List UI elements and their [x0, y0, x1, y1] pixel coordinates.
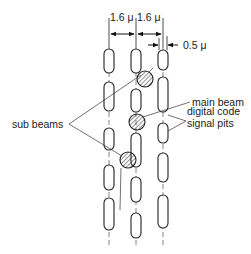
dimension-label-pitch-1: 1.6 μ: [110, 11, 134, 23]
pit: [104, 165, 114, 190]
pits-label-line1: digital code: [187, 105, 240, 117]
pit: [158, 153, 168, 182]
pit: [104, 49, 114, 73]
dimension-label-pitch-2: 1.6 μ: [137, 11, 161, 23]
pit: [131, 177, 141, 202]
sub-beam-lower: [120, 152, 136, 168]
pit: [131, 213, 141, 238]
pit: [158, 195, 168, 228]
pit: [131, 49, 141, 73]
sub-beams-label: sub beams: [12, 118, 63, 130]
pit: [158, 77, 168, 112]
dimension-label-pit-width: 0.5 μ: [183, 39, 207, 51]
pit: [158, 50, 168, 70]
main-beam: [129, 114, 145, 130]
dimension-arrows: [111, 34, 178, 45]
pit: [158, 123, 168, 143]
pit: [104, 128, 114, 150]
pits-label-line2: signal pits: [187, 117, 234, 129]
sub-beam-upper: [137, 71, 153, 87]
pit: [104, 198, 114, 230]
pit: [131, 89, 141, 112]
optical-track-diagram: 1.6 μ 1.6 μ 0.5 μ: [0, 0, 251, 254]
leader-lines: [69, 68, 190, 210]
